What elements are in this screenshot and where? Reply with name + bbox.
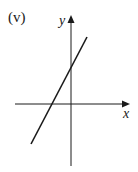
plotted-line [31, 37, 87, 144]
graph-canvas [0, 0, 138, 172]
x-axis-arrow-icon [122, 101, 130, 108]
y-axis-arrow-icon [68, 15, 75, 23]
